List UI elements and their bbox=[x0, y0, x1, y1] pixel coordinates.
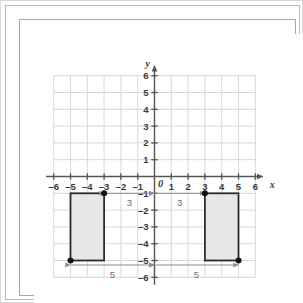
x-tick-label: 2 bbox=[185, 181, 190, 192]
y-tick-label: 2 bbox=[143, 137, 148, 148]
left-horizontal-distance-5-label: 5 bbox=[110, 269, 115, 280]
coordinate-plane-figure: –6–5–4–3–2–1123456–6–5–4–3–2–1123456 335… bbox=[34, 34, 303, 303]
coordinate-plane-svg: –6–5–4–3–2–1123456–6–5–4–3–2–1123456 335… bbox=[34, 34, 303, 303]
y-tick-label: 4 bbox=[143, 104, 149, 115]
left-bottom-outer-point bbox=[68, 258, 74, 264]
left-horizontal-distance-3-label: 3 bbox=[127, 197, 132, 208]
y-tick-label: –3 bbox=[138, 221, 149, 232]
y-tick-label: –5 bbox=[138, 255, 149, 266]
x-tick-label: 5 bbox=[236, 181, 242, 192]
y-tick-label: 5 bbox=[143, 87, 149, 98]
right-rectangle bbox=[205, 193, 239, 260]
x-tick-label: 1 bbox=[169, 181, 175, 192]
x-tick-label: 4 bbox=[219, 181, 225, 192]
right-horizontal-distance-5-label: 5 bbox=[194, 269, 199, 280]
y-axis-label: y bbox=[145, 58, 151, 69]
y-tick-label: 6 bbox=[143, 70, 148, 81]
y-tick-label: 1 bbox=[143, 154, 149, 165]
origin-label: 0 bbox=[158, 178, 164, 189]
x-tick-label: 6 bbox=[253, 181, 258, 192]
y-tick-label: 3 bbox=[143, 121, 148, 132]
x-tick-label: –6 bbox=[48, 181, 59, 192]
y-tick-label: –2 bbox=[138, 205, 149, 216]
x-axis-label: x bbox=[269, 179, 275, 190]
x-tick-label: –5 bbox=[65, 181, 76, 192]
right-top-inner-point bbox=[202, 190, 208, 196]
x-tick-label: –4 bbox=[82, 181, 93, 192]
plot-background bbox=[34, 34, 303, 303]
image-inner-border: –6–5–4–3–2–1123456–6–5–4–3–2–1123456 335… bbox=[19, 19, 296, 296]
left-top-inner-point bbox=[101, 190, 107, 196]
y-tick-label: –6 bbox=[138, 272, 149, 283]
right-horizontal-distance-3-label: 3 bbox=[177, 197, 182, 208]
image-middle-border: –6–5–4–3–2–1123456–6–5–4–3–2–1123456 335… bbox=[5, 5, 300, 300]
right-bottom-outer-point bbox=[236, 258, 242, 264]
left-rectangle bbox=[71, 193, 105, 260]
y-tick-label: –4 bbox=[138, 238, 149, 249]
x-tick-label: –2 bbox=[116, 181, 127, 192]
image-outer-border: –6–5–4–3–2–1123456–6–5–4–3–2–1123456 335… bbox=[0, 0, 303, 303]
